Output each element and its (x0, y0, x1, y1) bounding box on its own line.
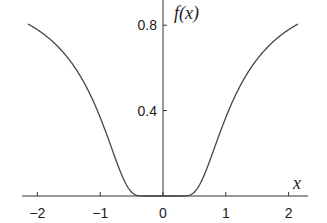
y-tick-label: 0.4 (138, 103, 158, 119)
x-tick-label: 0 (159, 205, 167, 221)
x-tick-label: −1 (92, 205, 108, 221)
axes (22, 0, 308, 196)
chart: −2−1012 0.40.8 f(x) x (0, 0, 327, 223)
y-tick-label: 0.8 (138, 17, 158, 33)
x-tick-label: 2 (285, 205, 293, 221)
y-axis-label: f(x) (174, 3, 199, 24)
x-tick-label: 1 (222, 205, 230, 221)
x-axis-label: x (292, 173, 301, 193)
x-tick-label: −2 (29, 205, 45, 221)
